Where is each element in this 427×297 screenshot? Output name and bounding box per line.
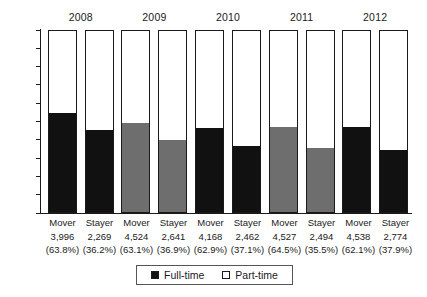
legend-entry: Full-time: [151, 269, 204, 281]
legend-swatch-icon: [222, 271, 230, 279]
x-axis-label-stack: Stayer2,494(35.5%): [303, 216, 340, 260]
x-axis-label-stack: Stayer2,269(36.2%): [81, 216, 118, 260]
bar-category-label: Mover: [192, 216, 229, 230]
bar: [48, 30, 77, 213]
year-label: 2010: [191, 8, 265, 26]
bar-segment-full-time: [380, 150, 407, 212]
x-axis-label-stack: Stayer2,641(36.9%): [155, 216, 192, 260]
bar: [85, 30, 114, 213]
bar-share-label: (63.8%): [44, 243, 81, 257]
bar-segment-full-time: [270, 127, 297, 212]
chart-legend: Full-timePart-time: [136, 265, 293, 285]
year-group-labels: 20082009201020112012: [44, 8, 412, 26]
bar: [342, 30, 371, 213]
bar-count-label: 2,462: [229, 230, 266, 244]
bar-segment-full-time: [307, 148, 334, 212]
legend-entry: Part-time: [222, 269, 278, 281]
bar-share-label: (36.9%): [155, 243, 192, 257]
bar-share-label: (35.5%): [303, 243, 340, 257]
bar-count-label: 2,494: [303, 230, 340, 244]
bar: [195, 30, 224, 213]
bar-segment-full-time: [159, 140, 186, 212]
bar-share-label: (63.1%): [118, 243, 155, 257]
bar-count-label: 4,524: [118, 230, 155, 244]
x-axis-label-stack: Mover4,538(62.1%): [340, 216, 377, 260]
bar-category-label: Mover: [118, 216, 155, 230]
year-label: 2011: [265, 8, 339, 26]
y-axis-spine: [40, 29, 41, 214]
bar: [121, 30, 150, 213]
bar: [306, 30, 335, 213]
x-axis-group: Mover4,168(62.9%)Stayer2,462(37.1%): [192, 216, 266, 260]
bar-count-label: 2,641: [155, 230, 192, 244]
bar-count-label: 4,168: [192, 230, 229, 244]
bar-share-label: (37.1%): [229, 243, 266, 257]
bar-count-label: 2,774: [377, 230, 414, 244]
plot-area: [44, 30, 412, 213]
bar-category-label: Mover: [266, 216, 303, 230]
bar-segment-full-time: [122, 123, 149, 212]
bar-segment-full-time: [233, 146, 260, 212]
stacked-bar-chart: 20082009201020112012 100%90%80%70%60%50%…: [0, 0, 427, 297]
bar-share-label: (36.2%): [81, 243, 118, 257]
legend-label: Full-time: [164, 269, 204, 281]
x-axis-label-stack: Mover4,527(64.5%): [266, 216, 303, 260]
bar-segment-full-time: [86, 130, 113, 212]
x-axis-group: Mover4,524(63.1%)Stayer2,641(36.9%): [118, 216, 192, 260]
x-axis-category-labels: Mover3,996(63.8%)Stayer2,269(36.2%)Mover…: [44, 216, 412, 260]
x-axis-label-stack: Mover3,996(63.8%): [44, 216, 81, 260]
bar: [232, 30, 261, 213]
bar-category-label: Stayer: [229, 216, 266, 230]
bar-share-label: (62.1%): [340, 243, 377, 257]
bar: [158, 30, 187, 213]
year-label: 2012: [338, 8, 412, 26]
bar: [269, 30, 298, 213]
legend-label: Part-time: [235, 269, 278, 281]
year-label: 2009: [118, 8, 192, 26]
x-axis-label-stack: Stayer2,774(37.9%): [377, 216, 414, 260]
x-axis-group: Mover3,996(63.8%)Stayer2,269(36.2%): [44, 216, 118, 260]
bar-share-label: (64.5%): [266, 243, 303, 257]
bar-segment-full-time: [343, 127, 370, 212]
x-axis-label-stack: Mover4,524(63.1%): [118, 216, 155, 260]
x-axis-label-stack: Stayer2,462(37.1%): [229, 216, 266, 260]
legend-swatch-icon: [151, 271, 159, 279]
bar-count-label: 2,269: [81, 230, 118, 244]
y-axis: 100%90%80%70%60%50%40%30%20%10%0%: [0, 0, 44, 297]
bar-category-label: Stayer: [303, 216, 340, 230]
year-label: 2008: [44, 8, 118, 26]
bar-category-label: Mover: [340, 216, 377, 230]
bar: [379, 30, 408, 213]
bar-category-label: Stayer: [81, 216, 118, 230]
x-axis-label-stack: Mover4,168(62.9%): [192, 216, 229, 260]
bar-category-label: Stayer: [155, 216, 192, 230]
bar-count-label: 4,527: [266, 230, 303, 244]
bar-category-label: Stayer: [377, 216, 414, 230]
x-axis-baseline: [36, 213, 412, 214]
bar-share-label: (62.9%): [192, 243, 229, 257]
bar-category-label: Mover: [44, 216, 81, 230]
bar-segment-full-time: [49, 113, 76, 212]
bar-count-label: 4,538: [340, 230, 377, 244]
x-axis-group: Mover4,527(64.5%)Stayer2,494(35.5%): [266, 216, 340, 260]
bar-count-label: 3,996: [44, 230, 81, 244]
bar-share-label: (37.9%): [377, 243, 414, 257]
x-axis-group: Mover4,538(62.1%)Stayer2,774(37.9%): [340, 216, 414, 260]
bar-segment-full-time: [196, 128, 223, 212]
